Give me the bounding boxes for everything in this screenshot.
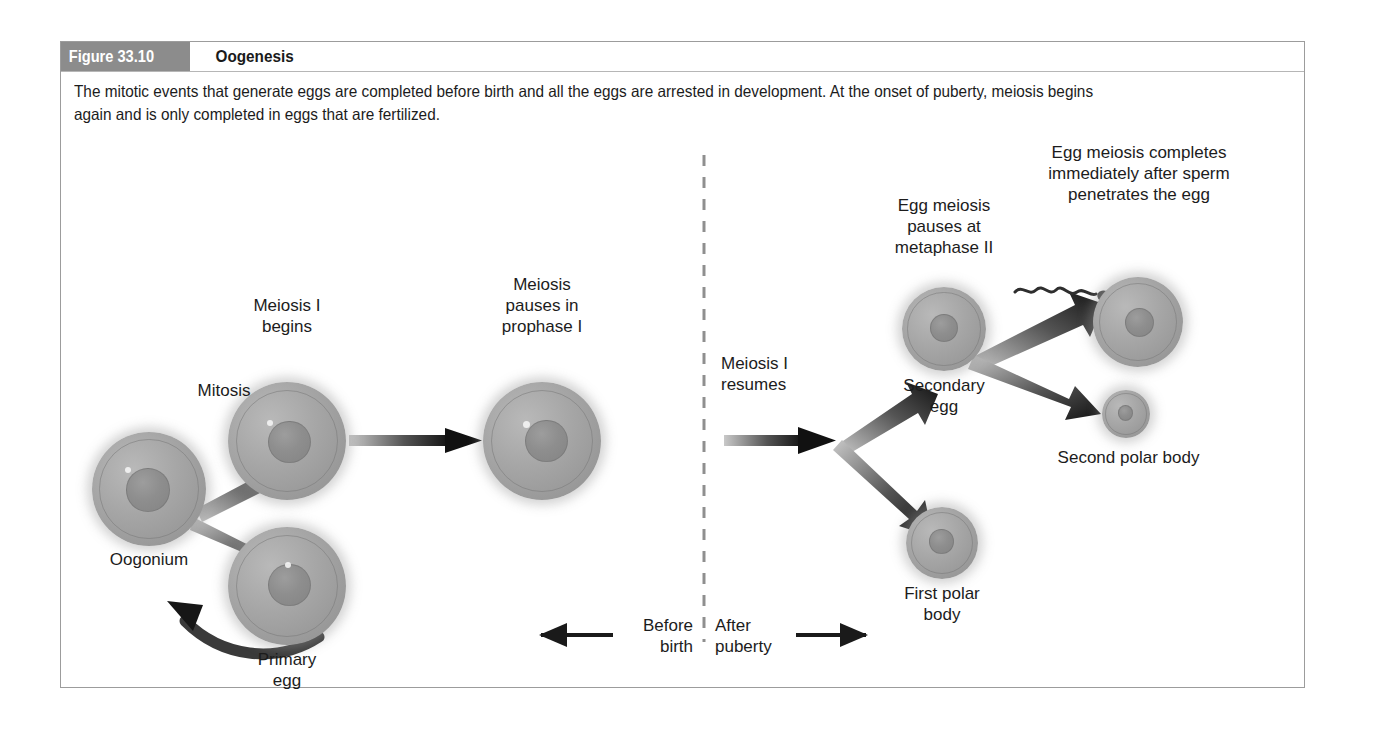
label-first-polar-body: First polar body bbox=[867, 583, 1017, 625]
cell-highlight bbox=[267, 420, 273, 426]
label-meiosis-i-resumes: Meiosis I resumes bbox=[721, 353, 851, 395]
cell-highlight bbox=[285, 562, 291, 568]
cell-prophase-i bbox=[483, 382, 601, 500]
cell-primary-egg bbox=[228, 527, 346, 645]
figure-frame: Figure 33.10 Oogenesis The mitotic event… bbox=[60, 41, 1305, 688]
cell-highlight bbox=[125, 467, 131, 473]
nucleus-secondary-egg bbox=[930, 314, 959, 343]
label-secondary-egg: Secondary egg bbox=[869, 375, 1019, 417]
cell-oogonium bbox=[92, 432, 206, 546]
label-meiosis-i-begins: Meiosis I begins bbox=[217, 295, 357, 337]
figure-header: Figure 33.10 Oogenesis bbox=[61, 42, 1304, 72]
oogenesis-diagram: Oogonium Meiosis I begins Primary egg Me… bbox=[61, 137, 1304, 689]
figure-title: Oogenesis bbox=[211, 42, 1195, 71]
cell-fertilized-egg bbox=[1093, 277, 1183, 367]
cell-first-polar-body bbox=[906, 507, 978, 579]
label-second-polar-body: Second polar body bbox=[1026, 447, 1231, 468]
figure-caption: The mitotic events that generate eggs ar… bbox=[74, 80, 1106, 126]
arrow-meiosis-i-resumes bbox=[724, 427, 836, 454]
label-prophase-i: Meiosis pauses in prophase I bbox=[467, 274, 617, 337]
cell-second-polar-body bbox=[1102, 390, 1150, 438]
label-oogonium: Oogonium bbox=[74, 549, 224, 570]
cell-secondary-egg bbox=[902, 287, 986, 371]
label-primary-egg: Primary egg bbox=[217, 649, 357, 691]
label-mitosis: Mitosis bbox=[169, 380, 279, 401]
nucleus-prophase-i bbox=[525, 420, 567, 462]
figure-number-badge: Figure 33.10 bbox=[61, 42, 190, 71]
nucleus-oogonium bbox=[126, 468, 169, 511]
arrow-to-fertilized-egg bbox=[973, 292, 1104, 371]
nucleus-fertilized-egg bbox=[1125, 308, 1155, 338]
nucleus-second-polar-body bbox=[1118, 405, 1133, 420]
nucleus-primary-egg bbox=[268, 564, 310, 606]
label-before-birth: Before birth bbox=[559, 615, 693, 657]
nucleus-first-polar-body bbox=[929, 529, 953, 553]
nucleus-meiosis-i-begins bbox=[268, 421, 310, 463]
label-after-puberty: After puberty bbox=[715, 615, 845, 657]
label-fertilized-egg: Egg meiosis completes immediately after … bbox=[989, 142, 1289, 205]
cell-highlight bbox=[523, 421, 530, 428]
arrow-to-prophase bbox=[349, 428, 482, 453]
